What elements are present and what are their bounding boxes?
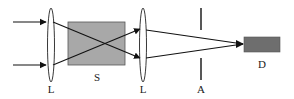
lens-1 — [48, 8, 55, 82]
lens-1-label: L — [48, 83, 55, 95]
aperture-label: A — [197, 83, 205, 95]
lens-2-label: L — [140, 83, 147, 95]
detector-box — [244, 37, 280, 52]
ray-converge-top — [146, 30, 243, 44]
converging-rays — [146, 30, 244, 58]
sample-box — [68, 22, 125, 65]
sample-label: S — [94, 71, 100, 83]
lens-2 — [140, 8, 147, 82]
incoming-beams — [13, 22, 46, 65]
optical-setup-diagram: L S L A D — [0, 0, 294, 99]
ray-converge-bottom — [146, 44, 243, 58]
detector-label: D — [258, 58, 266, 70]
arrowhead-icon — [236, 40, 244, 48]
